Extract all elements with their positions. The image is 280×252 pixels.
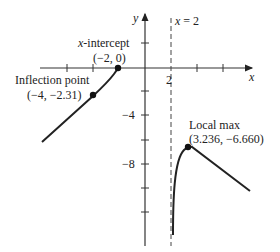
x-intercept-title: x-intercept (77, 36, 130, 50)
inflection-point (90, 92, 96, 98)
tick-label-2: 2 (166, 73, 172, 87)
x-intercept-point (115, 65, 121, 71)
right-branch-curve (173, 147, 250, 235)
x-intercept-coords: (−2, 0) (93, 51, 126, 65)
y-axis-label: y (132, 11, 139, 25)
tick-label-neg8: −8 (122, 157, 135, 171)
local-max-title: Local max (189, 118, 240, 132)
x-axis-label: x (248, 70, 255, 84)
local-max-coords: (3.236, −6.660) (189, 132, 264, 146)
inflection-coords: (−4, −2.31) (27, 88, 82, 102)
inflection-title: Inflection point (15, 73, 90, 87)
asymptote-label: x = 2 (174, 14, 199, 28)
tick-label-neg4: −4 (122, 108, 135, 122)
chart: y x x = 2 2 −4 −8 x-intercept (−2, 0) In… (0, 0, 280, 252)
